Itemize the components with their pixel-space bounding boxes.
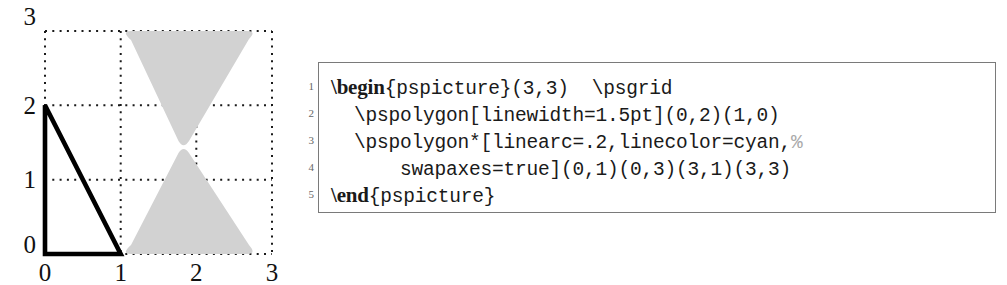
code-text: swapaxes=true](0,1)(0,3)(3,1)(3,3) xyxy=(331,159,791,181)
line-number: 3 xyxy=(300,127,314,154)
x-tick-0: 0 xyxy=(39,259,52,285)
bowtie-shape xyxy=(126,31,253,254)
pspicture-figure: 3 2 1 0 0 1 2 3 xyxy=(0,0,300,285)
code-text: {pspicture} xyxy=(369,186,496,208)
code-keyword: \end xyxy=(331,183,369,207)
code-keyword: \begin xyxy=(331,75,385,99)
y-axis-labels: 3 2 1 0 xyxy=(24,3,37,258)
y-tick-0: 0 xyxy=(24,231,37,258)
code-box: \begin{pspicture}(3,3) \psgrid \pspolygo… xyxy=(318,62,996,213)
y-tick-2: 2 xyxy=(24,92,37,119)
y-tick-1: 1 xyxy=(24,166,37,193)
line-number: 5 xyxy=(300,181,314,208)
line-number: 2 xyxy=(300,100,314,127)
code-line-3: \pspolygon*[linearc=.2,linecolor=cyan,% xyxy=(331,128,985,155)
code-text: {pspicture}(3,3) \psgrid xyxy=(385,78,673,100)
code-line-2: \pspolygon[linewidth=1.5pt](0,2)(1,0) xyxy=(331,101,985,128)
x-tick-3: 3 xyxy=(266,259,279,285)
line-number: 1 xyxy=(300,73,314,100)
code-listing: 1 2 3 4 5 \begin{pspicture}(3,3) \psgrid… xyxy=(300,62,996,213)
code-line-5: \end{pspicture} xyxy=(331,182,985,209)
x-tick-2: 2 xyxy=(190,259,203,285)
x-axis-labels: 0 1 2 3 xyxy=(39,259,279,285)
code-line-1: \begin{pspicture}(3,3) \psgrid xyxy=(331,74,985,101)
code-line-4: swapaxes=true](0,1)(0,3)(3,1)(3,3) xyxy=(331,155,985,182)
code-text: \pspolygon[linewidth=1.5pt](0,2)(1,0) xyxy=(331,105,780,127)
code-comment: % xyxy=(791,132,803,154)
x-tick-1: 1 xyxy=(114,259,127,285)
line-number: 4 xyxy=(300,154,314,181)
figure-panel: 3 2 1 0 0 1 2 3 xyxy=(0,0,300,285)
code-text: \pspolygon*[linearc=.2,linecolor=cyan, xyxy=(331,132,791,154)
y-tick-3: 3 xyxy=(24,3,37,30)
code-panel: 1 2 3 4 5 \begin{pspicture}(3,3) \psgrid… xyxy=(300,62,990,222)
line-number-gutter: 1 2 3 4 5 xyxy=(300,62,318,208)
triangle-shape xyxy=(45,105,121,254)
